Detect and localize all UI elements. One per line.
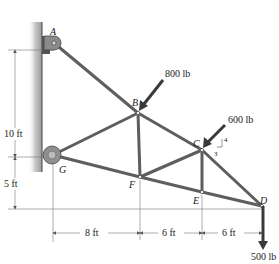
joint-label-B: B: [132, 97, 138, 108]
joint-label-A: A: [49, 26, 57, 37]
dim-label-6ft-1: 6 ft: [162, 227, 176, 238]
joint-dots: [136, 111, 263, 207]
joint-label-C: C: [193, 138, 200, 149]
load-label-800: 800 lb: [165, 68, 190, 79]
member-GB: [53, 113, 138, 155]
truss-diagram: A B C D E F G 800 lb 600 lb 4 3 500 lb 1…: [0, 0, 279, 264]
load-label-500: 500 lb: [251, 251, 276, 262]
wall: [28, 22, 42, 172]
roller-support-G: [43, 146, 61, 164]
dim-label-10ft: 10 ft: [4, 128, 23, 139]
joint-label-D: D: [259, 195, 268, 206]
load-label-600: 600 lb: [228, 114, 253, 125]
member-FC: [140, 150, 202, 177]
member-FE: [140, 177, 202, 192]
member-BF: [138, 113, 140, 177]
joint-label-E: E: [192, 195, 199, 206]
pin-support-A: [42, 36, 61, 54]
dim-label-6ft-2: 6 ft: [222, 227, 236, 238]
dim-label-8ft: 8 ft: [85, 227, 99, 238]
slope-run-label: 3: [214, 150, 218, 158]
joint-label-G: G: [59, 164, 66, 175]
dim-label-5ft: 5 ft: [4, 178, 18, 189]
load-800lb-arrow: [139, 80, 163, 111]
joint-label-F: F: [128, 179, 136, 190]
load-500lb-arrow: [258, 206, 268, 250]
slope-rise-label: 4: [224, 136, 228, 144]
load-600lb-arrow: [203, 125, 225, 148]
member-AB: [54, 43, 138, 113]
